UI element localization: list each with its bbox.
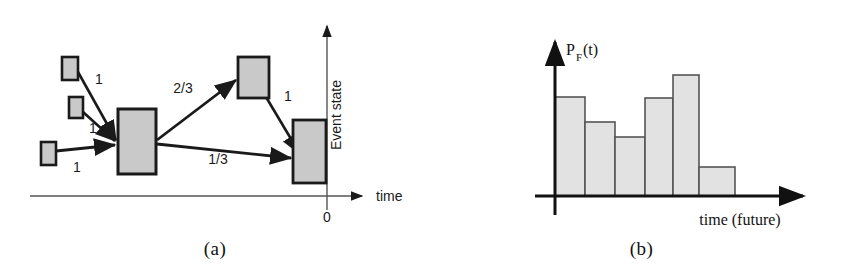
box-upper-right[interactable] [238, 57, 269, 98]
y-label-base: P [566, 41, 575, 58]
panel-b-svg: P F (t) time (future) [430, 0, 853, 278]
time-axis-label: time [376, 188, 403, 204]
box-far-right[interactable] [293, 120, 326, 183]
histogram-y-axis-label: P F (t) [566, 41, 598, 63]
panel-b-histogram: P F (t) time (future) (b) [430, 0, 853, 278]
small-box-middle-left[interactable] [69, 97, 83, 118]
histogram-bar[interactable] [555, 97, 585, 196]
edge-n4-n5 [157, 80, 236, 140]
edge-weight-n3-n4: 1 [73, 159, 81, 175]
histogram-bar[interactable] [585, 122, 615, 196]
histogram-bars [555, 75, 735, 196]
edge-n2-n4 [83, 112, 115, 141]
histogram-bar[interactable] [699, 167, 735, 196]
small-box-bottom-left[interactable] [41, 142, 56, 165]
edge-weight-n2-n4: 1 [89, 120, 97, 136]
y-label-subscript: F [576, 51, 582, 63]
histogram-bar[interactable] [673, 75, 699, 196]
origin-label: 0 [323, 209, 331, 225]
edge-weight-n4-n6: 1/3 [208, 151, 228, 167]
edge-weight-n4-n5: 2/3 [173, 80, 193, 96]
histogram-bar[interactable] [645, 98, 673, 196]
small-box-top-left[interactable] [62, 57, 78, 80]
histogram-x-axis-label: time (future) [699, 211, 780, 229]
event-state-axis-label: Event state [328, 80, 344, 150]
panel-a-event-state-graph: 1 1 1 2/3 1/3 1 time Event state 0 (a) [0, 0, 430, 278]
histogram-bar[interactable] [615, 137, 645, 196]
edge-weight-n5-n6: 1 [284, 88, 292, 104]
large-box-center[interactable] [118, 109, 156, 174]
edge-n3-n4 [56, 145, 115, 151]
y-label-tail: (t) [583, 41, 598, 59]
panel-a-svg: 1 1 1 2/3 1/3 1 time Event state 0 [0, 0, 430, 278]
panel-a-caption: (a) [0, 238, 430, 260]
panel-b-caption: (b) [430, 238, 853, 260]
figure-root: 1 1 1 2/3 1/3 1 time Event state 0 (a) [0, 0, 853, 278]
edge-weight-n1-n4: 1 [95, 71, 103, 87]
